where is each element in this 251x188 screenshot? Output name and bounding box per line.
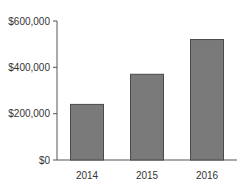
bar-chart: $0$200,000$400,000$600,000201420152016	[0, 0, 251, 188]
y-tick-label: $400,000	[8, 62, 50, 73]
bar-2014	[71, 104, 104, 160]
plot-area: $0$200,000$400,000$600,000201420152016	[0, 0, 251, 188]
x-tick-label: 2016	[196, 170, 219, 181]
x-tick-label: 2015	[136, 170, 159, 181]
x-tick-label: 2014	[76, 170, 99, 181]
bar-2015	[131, 74, 164, 160]
y-tick-label: $0	[39, 155, 51, 166]
bar-2016	[191, 40, 224, 160]
y-tick-label: $600,000	[8, 16, 50, 27]
y-tick-label: $200,000	[8, 108, 50, 119]
